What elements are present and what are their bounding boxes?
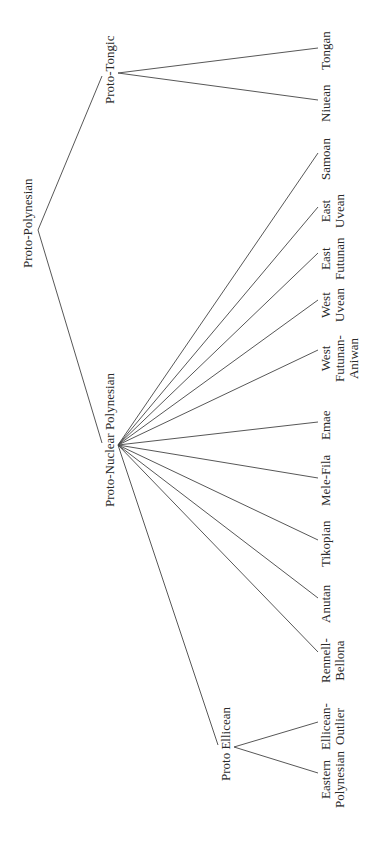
node-proto-tongic: Proto-Tongic bbox=[103, 36, 117, 104]
leaf-west-futunan-aniwan: WestFutunan-Aniwan bbox=[319, 335, 361, 382]
leaf-mele-fila: Mele-Fila bbox=[319, 455, 333, 506]
edge-nuclear-east-uvean bbox=[118, 207, 318, 445]
leaf-niuean: Niuean bbox=[319, 84, 333, 122]
tree-diagram bbox=[0, 0, 370, 843]
edge-nuclear-west-futunan-aniwan bbox=[118, 350, 318, 445]
edge-tongic-niuean bbox=[118, 73, 318, 100]
leaf-west-uvean: WestUvean bbox=[319, 288, 347, 322]
edge-nuclear-emae bbox=[118, 422, 318, 445]
edge-polynesian-nuclear bbox=[38, 230, 102, 443]
leaf-anutan: Anutan bbox=[319, 585, 333, 623]
leaf-east-uvean: EastUvean bbox=[319, 194, 347, 228]
edge-ellicean-outlier bbox=[234, 722, 318, 747]
leaf-tikopian: Tikopian bbox=[319, 521, 333, 567]
leaf-tongan: Tongan bbox=[319, 31, 333, 70]
leaf-ellicean-outlier: Ellicean-Outlier bbox=[319, 703, 347, 750]
edge-polynesian-tongic bbox=[38, 76, 102, 230]
edge-nuclear-tikopian bbox=[118, 445, 318, 540]
edge-nuclear-east-futunan bbox=[118, 253, 318, 445]
edge-nuclear-rennell-bellona bbox=[118, 445, 318, 652]
leaf-emae: Emae bbox=[319, 410, 333, 440]
leaf-samoan: Samoan bbox=[319, 138, 333, 180]
edge-nuclear-mele-fila bbox=[118, 445, 318, 478]
node-proto-ellicean: Proto Ellicean bbox=[219, 707, 233, 781]
leaf-eastern-polynesian: EasternPolynesian bbox=[319, 751, 347, 808]
edge-nuclear-west-uvean bbox=[118, 300, 318, 445]
edge-nuclear-samoan bbox=[118, 153, 318, 445]
node-proto-polynesian: Proto-Polynesian bbox=[21, 178, 35, 268]
edge-nuclear-anutan bbox=[118, 445, 318, 598]
edge-nuclear-ellicean bbox=[118, 445, 218, 745]
edge-tongic-tongan bbox=[118, 48, 318, 73]
edge-ellicean-eastern bbox=[234, 747, 318, 773]
node-proto-nuclear-polynesian: Proto-Nuclear Polynesian bbox=[103, 373, 117, 507]
leaf-east-futunan: EastFutunan bbox=[319, 237, 347, 280]
leaf-rennell-bellona: Rennell-Bellona bbox=[319, 638, 347, 683]
